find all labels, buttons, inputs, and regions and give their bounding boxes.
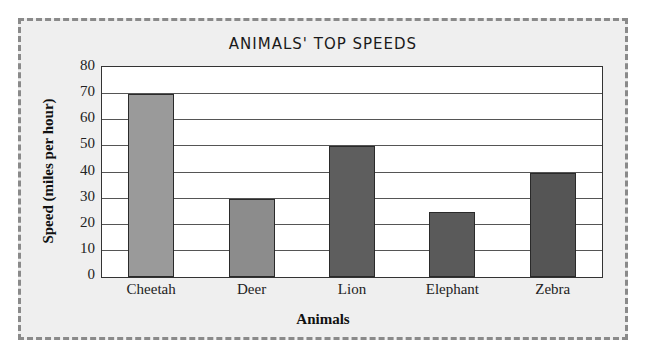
x-tick-label: Deer <box>202 281 302 298</box>
bar-cheetah <box>128 94 174 277</box>
gridline <box>102 93 602 94</box>
plot-area <box>101 66 603 278</box>
bar-deer <box>229 199 275 277</box>
x-tick-label: Zebra <box>503 281 603 298</box>
y-tick-label: 40 <box>65 162 95 179</box>
x-tick-label: Elephant <box>402 281 502 298</box>
bar-zebra <box>530 173 576 278</box>
y-tick-label: 0 <box>65 266 95 283</box>
x-tick-label: Lion <box>302 281 402 298</box>
y-tick-label: 20 <box>65 214 95 231</box>
x-tick-label: Cheetah <box>101 281 201 298</box>
chart-title: ANIMALS' TOP SPEEDS <box>21 35 625 53</box>
y-tick-label: 50 <box>65 135 95 152</box>
bar-elephant <box>429 212 475 277</box>
y-tick-label: 10 <box>65 240 95 257</box>
bar-lion <box>329 146 375 277</box>
x-axis-label: Animals <box>21 311 625 328</box>
y-tick-label: 30 <box>65 188 95 205</box>
y-tick-label: 80 <box>65 57 95 74</box>
y-tick-label: 70 <box>65 83 95 100</box>
y-tick-label: 60 <box>65 109 95 126</box>
y-axis-label: Speed (miles per hour) <box>40 98 57 243</box>
chart-frame: ANIMALS' TOP SPEEDS Speed (miles per hou… <box>18 18 628 340</box>
gridline <box>102 119 602 120</box>
